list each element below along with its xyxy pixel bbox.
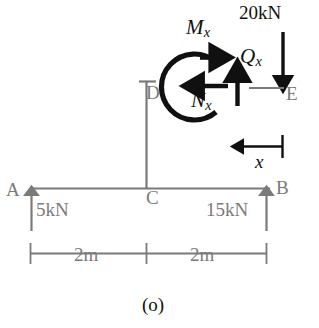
- moment-subscript: x: [204, 24, 210, 40]
- diagram-canvas: [0, 0, 319, 328]
- point-label-b: B: [276, 178, 289, 197]
- shear-force-label-qx: Qx: [240, 46, 262, 67]
- reaction-value-a: 5kN: [36, 200, 69, 219]
- span-label-right: 2m: [190, 245, 214, 264]
- shear-subscript: x: [255, 53, 261, 69]
- normal-symbol: N: [191, 88, 205, 112]
- normal-subscript: x: [205, 97, 211, 113]
- span-dimension-group: [30, 243, 267, 264]
- reaction-value-b: 15kN: [206, 200, 248, 219]
- moment-label-mx: Mx: [186, 17, 210, 38]
- span-label-left: 2m: [74, 245, 98, 264]
- point-label-c: C: [146, 188, 159, 207]
- moment-symbol: M: [186, 15, 204, 39]
- figure-caption: (o): [142, 295, 164, 314]
- beam-free-body-diagram: A B C D E 5kN 15kN 20kN Mx Nx Qx x 2m 2m…: [0, 0, 319, 328]
- point-label-d: D: [146, 83, 160, 102]
- shear-symbol: Q: [240, 44, 255, 68]
- applied-load-value-e: 20kN: [239, 3, 281, 22]
- x-dimension-label: x: [255, 152, 263, 171]
- point-label-a: A: [6, 180, 20, 199]
- normal-force-label-nx: Nx: [191, 90, 211, 111]
- point-label-e: E: [286, 84, 298, 103]
